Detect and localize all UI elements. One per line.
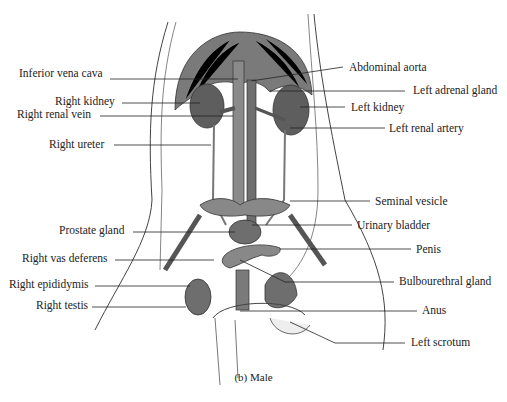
- figure-caption: (b) Male: [0, 371, 507, 383]
- label-right-testis: Right testis: [36, 299, 88, 312]
- label-prostate-gland: Prostate gland: [59, 224, 124, 237]
- label-right-ureter: Right ureter: [49, 138, 104, 151]
- label-penis: Penis: [416, 243, 441, 256]
- label-right-renal-vein: Right renal vein: [17, 108, 91, 121]
- label-seminal-vesicle: Seminal vesicle: [375, 195, 448, 208]
- label-right-vas-deferens: Right vas deferens: [22, 252, 108, 265]
- label-left-kidney: Left kidney: [351, 101, 404, 114]
- label-left-scrotum: Left scrotum: [411, 336, 470, 349]
- male-urogenital-diagram: Inferior vena cava Right kidney Right re…: [0, 0, 507, 402]
- label-right-epididymis: Right epididymis: [9, 278, 89, 291]
- label-left-renal-artery: Left renal artery: [389, 122, 464, 135]
- label-anus: Anus: [422, 304, 446, 317]
- label-abdominal-aorta: Abdominal aorta: [349, 61, 427, 74]
- label-urinary-bladder: Urinary bladder: [357, 219, 430, 232]
- label-inferior-vena-cava: Inferior vena cava: [19, 67, 103, 80]
- label-right-kidney: Right kidney: [55, 95, 115, 108]
- label-bulbourethral-gland: Bulbourethral gland: [399, 275, 491, 288]
- label-left-adrenal-gland: Left adrenal gland: [413, 84, 497, 97]
